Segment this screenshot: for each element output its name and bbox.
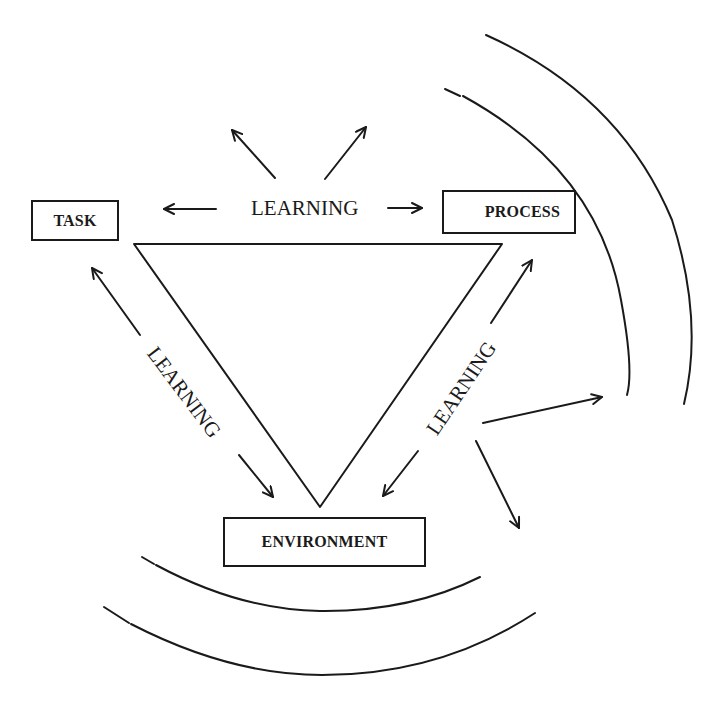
arrow-outward-right [483, 397, 602, 423]
task-node[interactable]: TASK [31, 200, 119, 241]
arrow-to-environment-from-left-learning [239, 455, 273, 497]
arrow-to-environment-from-right-learning [383, 451, 418, 496]
inner-right-arc-start [445, 89, 460, 96]
arrow-up-right [325, 127, 366, 179]
outer-bottom-arc [131, 613, 535, 675]
environment-node-label: ENVIRONMENT [262, 533, 388, 551]
process-node-label: PROCESS [485, 203, 560, 221]
diagram-canvas: TASK PROCESS ENVIRONMENT LEARNING LEARNI… [0, 0, 709, 702]
arrow-outward-down [476, 441, 519, 528]
arrow-to-process-from-right-learning [491, 260, 532, 323]
inner-bottom-arc-start [142, 557, 154, 564]
learning-label-top: LEARNING [251, 196, 358, 221]
diagram-lines [0, 0, 709, 702]
environment-node[interactable]: ENVIRONMENT [223, 517, 426, 567]
arrow-to-task-from-left-learning [92, 268, 140, 335]
process-node[interactable]: PROCESS [442, 190, 576, 234]
central-triangle [134, 244, 502, 507]
task-node-label: TASK [53, 212, 96, 230]
arrow-up-left [232, 130, 275, 178]
outer-bottom-arc-start [104, 607, 129, 623]
inner-bottom-arc [156, 565, 480, 611]
